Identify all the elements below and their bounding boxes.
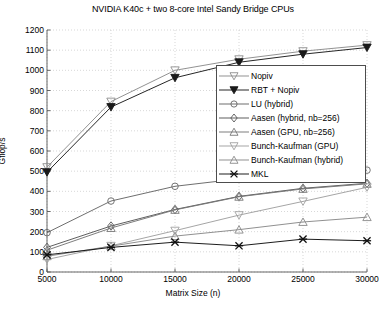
legend-item-label: Bunch-Kaufman (GPU)	[251, 142, 338, 151]
legend-marker-icon	[217, 167, 251, 181]
legend-item[interactable]: RBT + Nopiv	[217, 83, 365, 97]
legend-item-label: Aasen (hybrid, nb=256)	[251, 114, 340, 123]
legend-item[interactable]: Aasen (GPU, nb=256)	[217, 125, 365, 139]
legend-item-label: Aasen (GPU, nb=256)	[251, 128, 335, 137]
series-3	[44, 179, 371, 252]
legend-item[interactable]: Bunch-Kaufman (GPU)	[217, 139, 365, 153]
legend-marker-icon	[217, 153, 251, 167]
series-6	[43, 213, 371, 260]
legend-item-label: MKL	[251, 170, 268, 179]
legend-item-label: Nopiv	[251, 72, 273, 81]
chart-legend: NopivRBT + NopivLU (hybrid)Aasen (hybrid…	[216, 65, 366, 183]
series-4	[43, 180, 371, 254]
legend-marker-icon	[217, 69, 251, 83]
legend-item[interactable]: Aasen (hybrid, nb=256)	[217, 111, 365, 125]
legend-marker-icon	[217, 83, 251, 97]
legend-marker-icon	[217, 111, 251, 125]
series-7	[43, 236, 371, 259]
legend-item[interactable]: MKL	[217, 167, 365, 181]
legend-item[interactable]: Nopiv	[217, 69, 365, 83]
legend-marker-icon	[217, 139, 251, 153]
legend-item-label: LU (hybrid)	[251, 100, 293, 109]
legend-item-label: Bunch-Kaufman (hybrid)	[251, 156, 343, 165]
legend-marker-icon	[217, 97, 251, 111]
legend-item-label: RBT + Nopiv	[251, 86, 299, 95]
legend-item[interactable]: Bunch-Kaufman (hybrid)	[217, 153, 365, 167]
legend-item[interactable]: LU (hybrid)	[217, 97, 365, 111]
legend-marker-icon	[217, 125, 251, 139]
figure: NVIDIA K40c + two 8-core Intel Sandy Bri…	[0, 0, 386, 311]
